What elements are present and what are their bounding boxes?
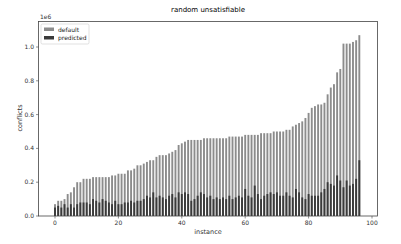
bar-predicted	[76, 204, 78, 216]
bar-predicted	[124, 202, 126, 216]
bar-predicted	[355, 179, 357, 216]
bar-predicted	[254, 186, 256, 216]
bar-predicted	[349, 186, 351, 216]
x-tick-label: 80	[305, 219, 313, 226]
y-scale-label: 1e6	[40, 13, 52, 20]
x-tick-label: 0	[53, 219, 57, 226]
bar-predicted	[149, 197, 151, 216]
bar-chart: random unsatisfiable 1e6 0.00.20.40.60.8…	[0, 0, 401, 244]
bar-predicted	[114, 201, 116, 216]
bar-predicted	[165, 199, 167, 216]
legend-swatch-predicted	[44, 36, 54, 40]
bar-predicted	[289, 196, 291, 216]
bar-predicted	[228, 196, 230, 216]
legend-label-predicted: predicted	[58, 34, 87, 42]
bar-predicted	[64, 204, 66, 216]
chart-title: random unsatisfiable	[171, 6, 245, 14]
bar-predicted	[102, 199, 104, 216]
y-axis: 0.00.20.40.60.81.0	[24, 43, 38, 219]
bar-predicted	[83, 202, 85, 216]
bar-predicted	[311, 196, 313, 216]
bar-predicted	[162, 197, 164, 216]
legend-label-default: default	[58, 26, 80, 33]
bar-predicted	[60, 208, 62, 216]
bar-predicted	[136, 201, 138, 216]
bar-predicted	[213, 199, 215, 216]
bar-predicted	[216, 197, 218, 216]
bar-predicted	[89, 204, 91, 216]
bar-predicted	[194, 199, 196, 216]
bar-predicted	[146, 196, 148, 216]
bar-predicted	[187, 194, 189, 216]
bar-predicted	[127, 202, 129, 216]
bar-predicted	[336, 175, 338, 216]
bar-predicted	[140, 201, 142, 216]
bar-predicted	[304, 199, 306, 216]
bar-predicted	[152, 192, 154, 216]
bar-predicted	[143, 199, 145, 216]
bar-predicted	[98, 202, 100, 216]
y-tick-label: 0.0	[24, 212, 34, 219]
bar-predicted	[92, 199, 94, 216]
bar-predicted	[130, 201, 132, 216]
bar-predicted	[222, 197, 224, 216]
bar-predicted	[279, 196, 281, 216]
bar-predicted	[324, 189, 326, 216]
bar-predicted	[298, 192, 300, 216]
bar-predicted	[270, 192, 272, 216]
bar-predicted	[168, 196, 170, 216]
bar-predicted	[358, 160, 360, 216]
bar-predicted	[105, 201, 107, 216]
x-tick-label: 60	[241, 219, 249, 226]
bar-predicted	[79, 202, 81, 216]
bar-predicted	[266, 194, 268, 216]
bar-predicted	[330, 184, 332, 216]
y-tick-label: 0.6	[24, 111, 34, 118]
bar-predicted	[133, 202, 135, 216]
bar-predicted	[327, 182, 329, 216]
bar-predicted	[317, 196, 319, 216]
bar-predicted	[241, 197, 243, 216]
bar-predicted	[171, 194, 173, 216]
bar-predicted	[314, 196, 316, 216]
y-tick-label: 1.0	[24, 43, 34, 50]
x-tick-label: 40	[178, 219, 186, 226]
bar-predicted	[184, 192, 186, 216]
bar-predicted	[159, 196, 161, 216]
bar-predicted	[86, 202, 88, 216]
bar-predicted	[190, 201, 192, 216]
bar-predicted	[178, 192, 180, 216]
bar-predicted	[57, 206, 59, 216]
bar-predicted	[209, 196, 211, 216]
bar-predicted	[260, 199, 262, 216]
bar-predicted	[70, 204, 72, 216]
bar-predicted	[232, 199, 234, 216]
bar-predicted	[295, 189, 297, 216]
bar-predicted	[203, 194, 205, 216]
bar-predicted	[73, 208, 75, 216]
bar-predicted	[117, 204, 119, 216]
y-tick-label: 0.8	[24, 77, 34, 84]
x-tick-label: 100	[366, 219, 378, 226]
bar-predicted	[197, 196, 199, 216]
bar-predicted	[339, 181, 341, 216]
bar-predicted	[121, 204, 123, 216]
bar-predicted	[95, 201, 97, 216]
bars-group	[54, 35, 360, 216]
bar-predicted	[301, 197, 303, 216]
bar-predicted	[108, 202, 110, 216]
bar-predicted	[244, 189, 246, 216]
bar-predicted	[352, 184, 354, 216]
bar-predicted	[111, 204, 113, 216]
bar-predicted	[320, 192, 322, 216]
bar-predicted	[238, 196, 240, 216]
bar-predicted	[257, 194, 259, 216]
bar-predicted	[235, 197, 237, 216]
bar-predicted	[276, 192, 278, 216]
y-axis-label: conflicts	[16, 104, 24, 132]
bar-predicted	[175, 197, 177, 216]
bar-predicted	[285, 192, 287, 216]
bar-predicted	[67, 208, 69, 216]
bar-predicted	[282, 196, 284, 216]
bar-predicted	[251, 197, 253, 216]
